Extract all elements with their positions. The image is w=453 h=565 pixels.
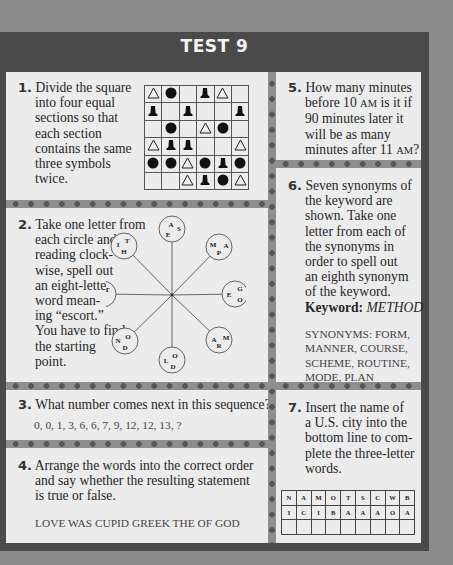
triangle-icon <box>199 122 212 136</box>
text-line: twice. <box>18 171 148 186</box>
bell-icon <box>199 87 211 101</box>
grid-cell <box>197 155 214 172</box>
text-line: will be as many <box>288 127 423 142</box>
text-line: is it if <box>377 95 412 110</box>
question-6-text: 6. Seven synonyms of the keyword are sho… <box>288 178 423 315</box>
answer-cell[interactable] <box>282 520 297 535</box>
question-number: 7. <box>288 400 302 415</box>
question-7-panel: 7. Insert the name of a U.S. city into t… <box>276 390 421 543</box>
grid-cell <box>145 120 162 137</box>
question-number: 1. <box>18 80 32 95</box>
circle-icon <box>217 174 229 188</box>
letter-cell: O <box>385 505 400 520</box>
question-4-text: 4. Arrange the words into the correct or… <box>18 458 268 504</box>
letter-circle-top-left: ITH <box>111 233 137 259</box>
answer-cell[interactable] <box>341 520 356 535</box>
letter-cell: T <box>341 491 356 506</box>
answer-cell[interactable] <box>370 520 385 535</box>
question-number: 3. <box>18 397 32 412</box>
grid-cell <box>231 86 248 103</box>
grid-cell <box>197 120 214 137</box>
bell-icon <box>182 139 194 153</box>
question-5-text: 5. How many minutes before 10 AM is it i… <box>288 80 423 158</box>
grid-cell <box>162 172 179 189</box>
text-line: SYNONYMS: FORM, <box>305 327 410 341</box>
grid-cell <box>197 172 214 189</box>
grid-cell <box>214 120 231 137</box>
svg-text:M: M <box>223 334 230 342</box>
svg-text:I: I <box>117 241 120 249</box>
text-line: and say whether the resulting statement <box>18 473 268 488</box>
letter-cell: O <box>326 491 341 506</box>
text-line: shown. Take one <box>288 208 423 223</box>
letter-circle-top-right: MAP <box>206 234 232 260</box>
text-line: ? <box>413 142 419 157</box>
grid-cell <box>197 86 214 103</box>
grid-cell <box>214 155 231 172</box>
letter-cell: S <box>355 491 370 506</box>
letter-cell: A <box>341 505 356 520</box>
keyword-label: Keyword: <box>305 300 363 315</box>
letter-cell: A <box>400 505 415 520</box>
text-line: letter from each of <box>288 224 423 239</box>
answer-cell[interactable] <box>326 520 341 535</box>
grid-cell <box>179 155 196 172</box>
question-1-text: 1. Divide the square into four equal sec… <box>18 80 148 186</box>
text-line: contains the same <box>18 141 148 156</box>
grid-cell <box>179 138 196 155</box>
letter-circle-top: ASE <box>159 216 185 242</box>
grid-cell <box>197 138 214 155</box>
grid-cell <box>145 155 162 172</box>
answer-cell[interactable] <box>385 520 400 535</box>
svg-text:S: S <box>177 225 181 233</box>
synonyms-list: SYNONYMS: FORM, MANNER, COURSE, SCHEME, … <box>305 327 410 385</box>
letter-circle-bottom-right: AMR <box>206 327 232 353</box>
answer-cell[interactable] <box>311 520 326 535</box>
grid-cell <box>145 103 162 120</box>
letter-cell: C <box>296 505 311 520</box>
question-7-text: 7. Insert the name of a U.S. city into t… <box>288 400 423 476</box>
svg-text:G: G <box>237 285 243 293</box>
triangle-icon <box>181 157 194 171</box>
answer-cell[interactable] <box>400 520 415 535</box>
bell-icon <box>199 174 211 188</box>
grid-cell <box>145 138 162 155</box>
bell-icon <box>217 157 229 171</box>
letter-table: NAMOTSCWBICIBAAAOA <box>281 490 415 535</box>
text-line: minutes after 11 <box>305 142 396 157</box>
svg-text:T: T <box>106 286 110 294</box>
text-line: of the keyword. <box>288 284 423 299</box>
text-line: each section <box>18 126 148 141</box>
dotted-divider <box>276 160 421 168</box>
circle-icon <box>165 157 177 171</box>
letter-cell: B <box>400 491 415 506</box>
letter-cell: N <box>282 491 297 506</box>
question-prompt: What number comes next in this sequence? <box>35 397 268 412</box>
svg-text:E: E <box>227 291 232 299</box>
grid-cell <box>162 155 179 172</box>
grid-cell <box>231 120 248 137</box>
letter-circle-bottom-left: NOD <box>112 328 138 354</box>
symbol-grid <box>144 85 249 190</box>
text-line: plete the three-letter <box>288 446 423 461</box>
dotted-divider <box>6 440 268 448</box>
triangle-icon <box>234 174 247 188</box>
bell-icon <box>234 105 246 119</box>
question-3-panel: 3. What number comes next in this sequen… <box>6 390 268 440</box>
letter-cell: B <box>326 505 341 520</box>
answer-cell[interactable] <box>355 520 370 535</box>
question-2-panel: 2. Take one letter from each circle and,… <box>6 208 268 382</box>
answer-cell[interactable] <box>296 520 311 535</box>
grid-cell <box>162 138 179 155</box>
grid-cell <box>145 86 162 103</box>
text-line: bottom line to com- <box>288 430 423 445</box>
circle-icon <box>234 157 246 171</box>
question-number: 5. <box>288 80 302 95</box>
grid-cell <box>179 172 196 189</box>
question-5-panel: 5. How many minutes before 10 AM is it i… <box>276 72 421 160</box>
letter-cell: M <box>311 491 326 506</box>
table-row: NAMOTSCWB <box>282 491 415 506</box>
triangle-icon <box>147 87 160 101</box>
letter-wheel-diagram: ASEMAPGEOAMRLODNODCTAITH <box>106 210 246 380</box>
grid-cell <box>214 138 231 155</box>
